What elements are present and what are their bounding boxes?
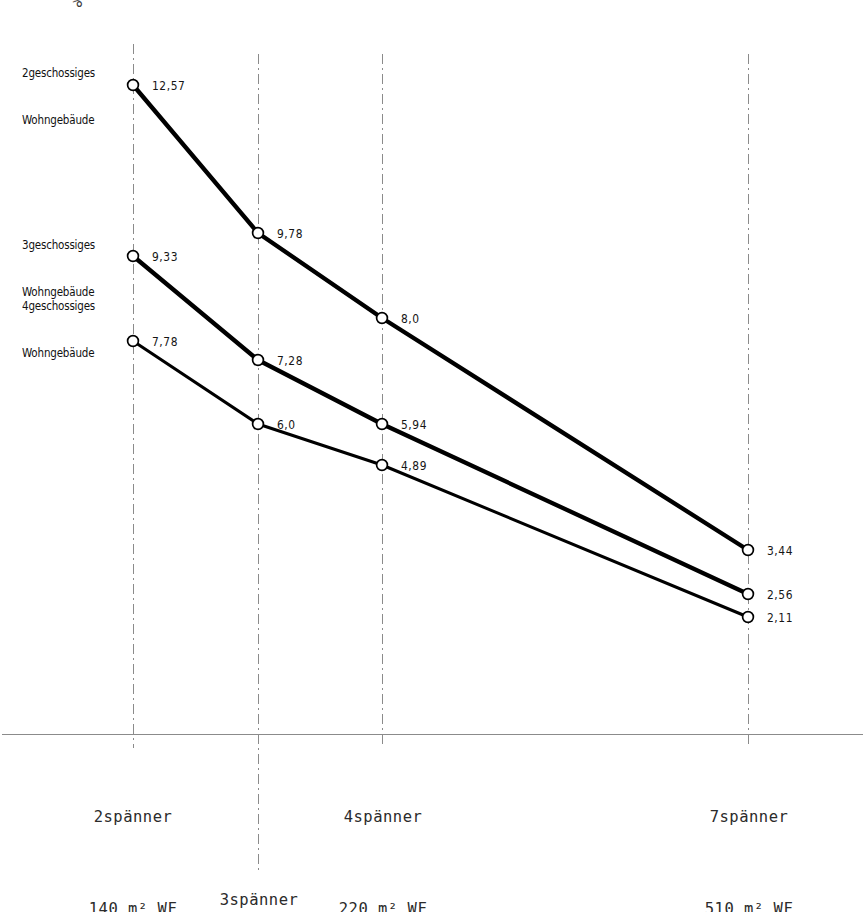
category-name: 2spänner — [43, 805, 223, 830]
legend-line-2: Wohngebäude — [22, 345, 95, 361]
legend-line-2: Wohngebäude — [22, 112, 95, 128]
legend-line-1: 3geschossiges — [22, 237, 95, 253]
value-label-a1: 9,78 — [277, 226, 303, 241]
value-label-b3: 2,56 — [767, 587, 793, 602]
data-point-marker — [128, 80, 139, 91]
category-block-4spaenner: 4spänner 220 m² WF je Geschoß — [293, 755, 473, 912]
series-line-2geschossig — [133, 85, 748, 550]
value-label-a0: 12,57 — [152, 78, 185, 93]
category-block-7spaenner: 7spänner 510 m² WF je Geschoß — [659, 755, 839, 912]
value-label-c2: 4,89 — [401, 458, 427, 473]
category-area: 510 m² WF — [659, 897, 839, 912]
legend-line-1: 2geschossiges — [22, 65, 95, 81]
series-line-3geschossig — [133, 256, 748, 594]
data-point-marker — [128, 336, 139, 347]
data-point-marker — [377, 419, 388, 430]
value-label-c3: 2,11 — [767, 610, 793, 625]
data-point-marker — [743, 589, 754, 600]
data-point-marker — [253, 419, 264, 430]
value-label-a3: 3,44 — [767, 543, 793, 558]
category-name: 4spänner — [293, 805, 473, 830]
data-point-marker — [253, 355, 264, 366]
data-point-marker — [743, 612, 754, 623]
legend-line-1: 4geschossiges — [22, 298, 95, 314]
value-label-b1: 7,28 — [277, 353, 303, 368]
data-point-marker — [377, 460, 388, 471]
data-point-marker — [253, 228, 264, 239]
category-area: 220 m² WF — [293, 897, 473, 912]
value-label-b0: 9,33 — [152, 249, 178, 264]
value-label-b2: 5,94 — [401, 417, 427, 432]
value-label-c0: 7,78 — [152, 334, 178, 349]
data-point-marker — [743, 545, 754, 556]
category-name: 7spänner — [659, 805, 839, 830]
data-point-marker — [377, 313, 388, 324]
chart-canvas: % 2geschossiges Wohngebäude — [0, 0, 865, 912]
data-point-marker — [128, 251, 139, 262]
value-label-c1: 6,0 — [277, 417, 296, 432]
legend-label-2geschossig: 2geschossiges Wohngebäude — [22, 34, 95, 158]
value-label-a2: 8,0 — [401, 311, 420, 326]
series-line-4geschossig — [133, 341, 748, 617]
legend-label-4geschossig: 4geschossiges Wohngebäude — [22, 267, 95, 391]
